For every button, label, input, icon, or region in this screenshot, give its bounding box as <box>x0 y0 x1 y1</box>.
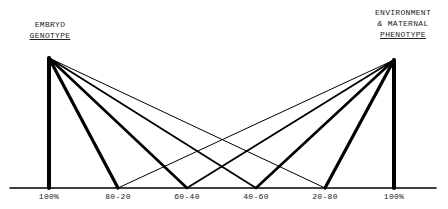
label-left-100: 100% <box>29 192 69 202</box>
left-line-3 <box>49 58 256 188</box>
left-header-line1: EMBRYO <box>28 19 72 30</box>
left-line-2 <box>49 58 187 188</box>
left-line-1 <box>49 58 118 188</box>
left-header: EMBRYO GENOTYPE <box>28 19 72 41</box>
right-header-line1: ENVIRONMENT <box>366 7 440 18</box>
label-right-100: 100% <box>374 192 414 202</box>
right-line-3 <box>256 60 394 188</box>
left-line-4 <box>49 58 325 188</box>
label-40-60: 40-60 <box>236 192 276 202</box>
label-80-20: 80-20 <box>98 192 138 202</box>
right-header-line2: & MATERNAL <box>366 18 440 29</box>
left-header-line2: GENOTYPE <box>28 30 72 41</box>
right-header-line3: PHENOTYPE <box>366 29 440 40</box>
label-60-40: 60-40 <box>167 192 207 202</box>
right-line-4 <box>325 60 394 188</box>
right-header: ENVIRONMENT & MATERNAL PHENOTYPE <box>366 7 440 40</box>
right-line-1 <box>118 60 394 188</box>
right-line-2 <box>187 60 394 188</box>
label-20-80: 20-80 <box>305 192 345 202</box>
